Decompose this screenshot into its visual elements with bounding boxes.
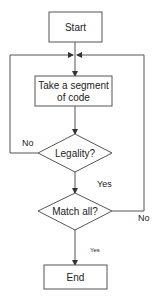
legality-no-label: No <box>22 138 34 148</box>
legality-label: Legality? <box>55 148 95 159</box>
match-all-node: Match all? <box>38 193 112 230</box>
flowchart: Start Take a segment of code Legality? N… <box>0 0 158 304</box>
end-label: End <box>67 272 85 283</box>
take-segment-node: Take a segment of code <box>35 76 112 106</box>
match-all-label: Match all? <box>52 206 98 217</box>
take-segment-label-2: of code <box>57 92 90 103</box>
match-yes-label: Yes <box>90 247 100 253</box>
start-node: Start <box>49 12 102 42</box>
take-segment-label-1: Take a segment <box>38 80 109 91</box>
match-no-label: No <box>138 213 150 223</box>
start-label: Start <box>65 22 86 33</box>
legality-yes-label: Yes <box>97 179 112 189</box>
end-node: End <box>44 265 107 289</box>
legality-node: Legality? <box>38 134 112 172</box>
